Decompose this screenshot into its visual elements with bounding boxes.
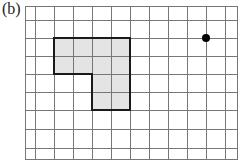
point-dot: [202, 34, 210, 42]
grid-diagram: [0, 0, 238, 166]
